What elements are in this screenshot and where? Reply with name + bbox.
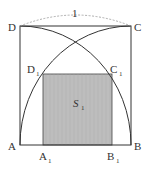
label-a: A bbox=[8, 140, 16, 152]
label-c: C bbox=[134, 21, 141, 33]
label-d: D bbox=[8, 21, 16, 33]
label-d1-sub: 1 bbox=[36, 70, 40, 78]
geometry-diagram: 1 D C A B D 1 C 1 A 1 B 1 S 1 bbox=[0, 0, 151, 169]
label-a1: A bbox=[39, 150, 47, 162]
shaded-square-s1 bbox=[43, 74, 112, 145]
label-b1: B bbox=[107, 150, 114, 162]
area-label: S bbox=[73, 97, 79, 109]
label-c1-sub: 1 bbox=[119, 70, 123, 78]
area-label-sub: 1 bbox=[81, 104, 85, 112]
label-c1: C bbox=[110, 63, 117, 75]
label-b: B bbox=[134, 140, 141, 152]
label-b1-sub: 1 bbox=[116, 157, 120, 165]
label-d1: D bbox=[27, 63, 35, 75]
side-length-label: 1 bbox=[72, 7, 78, 19]
label-a1-sub: 1 bbox=[48, 157, 52, 165]
